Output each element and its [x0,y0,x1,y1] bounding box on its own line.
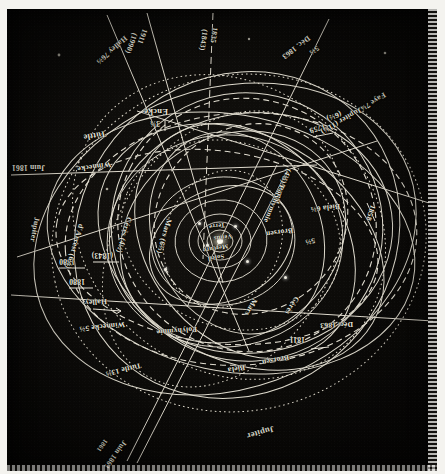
planet-ceres [164,268,167,271]
orbit-label-y-1811: 1811 [289,335,305,343]
arm-juin1861-chord [11,165,317,175]
arm-winnecke-chord [11,295,433,321]
orbit-label-y-1843-b: (1843) [198,29,209,51]
planet-venus [234,225,237,228]
engraving-plate: JupiterJuin 18611861Tuttle 13⅔BielaBrors… [0,0,445,474]
planet-mars [246,260,249,263]
speck-d [248,38,250,40]
chart-field: JupiterJuin 18611861Tuttle 13⅔BielaBrors… [7,9,437,471]
orbit-label-terre: Terre [209,222,226,230]
right-edge-fray [428,9,437,471]
orbit-label-five-thirds-a: 5⅔ [305,236,316,245]
orbit-label-juin-1861-right: Juin 1861 [12,163,45,171]
orbit-label-biela-top: Biela [227,363,246,374]
orbit-label-dec-1863-top: Déc. 1863 [320,320,353,329]
speck-c [384,52,387,55]
orbit-label-halley-top: Halley [84,297,107,306]
orbit-label-y-1843: (1843) [92,251,113,259]
orbit-label-y-1835: 1835 [209,27,219,44]
bottom-edge-fray [7,465,437,471]
orbit-label-polyhymnie-top: Polyhymnie [156,325,197,335]
orbit-label-y-1880-a: 1880 [69,277,85,285]
orbit-label-biela-6: Biela 6⅔ [310,202,340,213]
orbit-label-soleil: Soleil [207,253,224,262]
inverted-content-layer: JupiterJuin 18611861Tuttle 13⅔BielaBrors… [7,9,437,471]
orbit-label-venus: Vénus [213,233,232,242]
speck-a [160,392,163,395]
orbit-label-encke: Encke [144,107,168,116]
orbit-label-encke-period: 3⅓ [150,119,160,127]
planet-jupiter [284,276,287,279]
arm-halley-76 [107,15,249,351]
planet-terre [198,222,201,225]
speck-b [106,188,109,191]
tick-halley [93,309,121,311]
speck-e [58,54,61,57]
